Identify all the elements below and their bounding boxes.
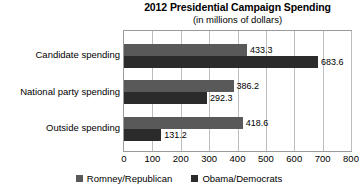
x-tick-label: 0 bbox=[121, 153, 126, 165]
bar bbox=[124, 44, 247, 56]
gridline bbox=[323, 31, 324, 151]
bar-value-label: 433.3 bbox=[247, 44, 273, 56]
gridline bbox=[294, 31, 295, 151]
bar bbox=[124, 129, 161, 141]
x-tick-label: 600 bbox=[286, 153, 302, 165]
x-axis: 0100200300400500600700800 bbox=[123, 153, 352, 167]
bar-value-label: 418.6 bbox=[243, 117, 269, 129]
x-tick-label: 200 bbox=[173, 153, 189, 165]
legend-swatch-icon bbox=[76, 175, 83, 182]
x-tick-label: 400 bbox=[230, 153, 246, 165]
bar-value-label: 292.3 bbox=[207, 92, 233, 104]
x-tick-label: 300 bbox=[201, 153, 217, 165]
category-axis-labels: Candidate spendingNational party spendin… bbox=[0, 30, 120, 152]
chart-legend: Romney/RepublicanObama/Democrats bbox=[0, 171, 358, 185]
x-tick-label: 500 bbox=[258, 153, 274, 165]
category-label: Candidate spending bbox=[2, 49, 120, 60]
chart-subtitle: (in millions of dollars) bbox=[123, 14, 352, 25]
legend-item[interactable]: Romney/Republican bbox=[76, 173, 173, 184]
bar bbox=[124, 80, 234, 92]
legend-item[interactable]: Obama/Democrats bbox=[191, 173, 282, 184]
category-label: Outside spending bbox=[2, 122, 120, 133]
category-label: National party spending bbox=[2, 86, 120, 97]
legend-swatch-icon bbox=[191, 175, 198, 182]
legend-label: Obama/Democrats bbox=[202, 173, 282, 184]
bar-value-label: 131.2 bbox=[161, 129, 187, 141]
gridline bbox=[351, 31, 352, 151]
bar-value-label: 386.2 bbox=[234, 80, 260, 92]
x-tick-label: 800 bbox=[343, 153, 359, 165]
bar bbox=[124, 92, 207, 104]
x-tick-label: 700 bbox=[315, 153, 331, 165]
bar bbox=[124, 56, 318, 68]
legend-label: Romney/Republican bbox=[87, 173, 173, 184]
bar-value-label: 683.6 bbox=[318, 56, 344, 68]
plot-area: 433.3683.6386.2292.3418.6131.2 bbox=[123, 30, 352, 152]
chart-title: 2012 Presidential Campaign Spending bbox=[123, 1, 352, 13]
x-tick-label: 100 bbox=[144, 153, 160, 165]
bar bbox=[124, 117, 243, 129]
